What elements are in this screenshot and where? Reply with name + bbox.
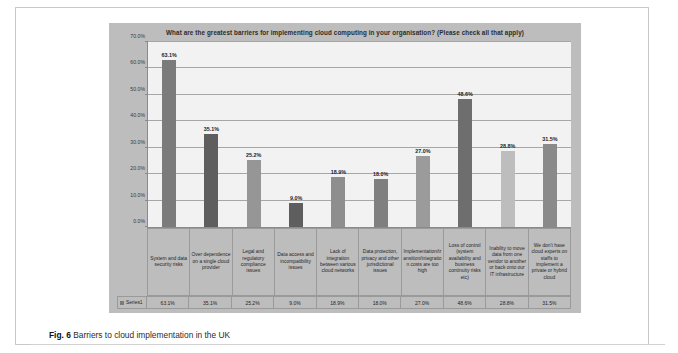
bar-value-label: 18.9% bbox=[331, 169, 346, 175]
figure-caption: Fig. 6 Barriers to cloud implementation … bbox=[49, 330, 649, 340]
y-axis-tick-label: 70.0% bbox=[130, 33, 145, 39]
value-cell: 63.1% bbox=[147, 297, 189, 309]
y-axis-tick-label: 40.0% bbox=[130, 112, 145, 118]
category-label-cell: Implementation/transition/integration co… bbox=[402, 229, 444, 296]
category-label-cell: Legal and regulatory compliance issues bbox=[233, 229, 275, 296]
y-axis-tick-label: 30.0% bbox=[130, 139, 145, 145]
figure-frame: What are the greatest barriers for imple… bbox=[15, 7, 649, 345]
category-axis-table: System and data security risksOver depen… bbox=[147, 228, 571, 296]
chart-title: What are the greatest barriers for imple… bbox=[123, 26, 567, 41]
value-cell: 35.1% bbox=[189, 297, 231, 309]
gridline bbox=[148, 120, 571, 121]
bar-value-label: 28.8% bbox=[500, 143, 515, 149]
y-axis-tick-label: 20.0% bbox=[130, 165, 145, 171]
value-cell: 48.6% bbox=[444, 297, 486, 309]
bar-value-label: 18.0% bbox=[373, 171, 388, 177]
y-axis-tick-mark bbox=[145, 120, 148, 121]
bar[interactable]: 18.9% bbox=[331, 177, 345, 227]
value-cell: 18.9% bbox=[317, 297, 359, 309]
bar-value-label: 48.6% bbox=[458, 91, 473, 97]
bar[interactable]: 27.0% bbox=[416, 156, 430, 227]
plot-area: 0.0%10.0%20.0%30.0%40.0%50.0%60.0%70.0%6… bbox=[147, 42, 571, 228]
y-axis-tick-label: 0.0% bbox=[133, 218, 145, 224]
y-axis-tick-mark bbox=[145, 41, 148, 42]
category-label-cell: System and data security risks bbox=[147, 229, 190, 296]
value-cell: 9.0% bbox=[274, 297, 316, 309]
bar[interactable]: 9.0% bbox=[289, 203, 303, 227]
y-axis-tick-label: 60.0% bbox=[130, 59, 145, 65]
value-cell: 28.8% bbox=[486, 297, 528, 309]
legend-series-label: Series1 bbox=[126, 300, 143, 305]
category-label-cell: Lack of integration between various clou… bbox=[317, 229, 359, 296]
bar-value-label: 25.2% bbox=[246, 152, 261, 158]
gridline bbox=[148, 94, 571, 95]
gridline bbox=[148, 41, 571, 42]
bar[interactable]: 63.1% bbox=[162, 60, 176, 227]
figure-label: Fig. 6 bbox=[49, 330, 71, 340]
bar-value-label: 9.0% bbox=[290, 195, 302, 201]
bar[interactable]: 31.5% bbox=[543, 144, 557, 227]
category-label-cell: We don't have cloud experts on staffs to… bbox=[529, 229, 571, 296]
category-label-cell: Data access and incompatibility issues bbox=[275, 229, 317, 296]
bar[interactable]: 28.8% bbox=[501, 151, 515, 227]
y-axis-tick-mark bbox=[145, 67, 148, 68]
bar[interactable]: 35.1% bbox=[204, 134, 218, 227]
category-label-cell: Inability to move data from one vendor t… bbox=[486, 229, 528, 296]
value-cell-group: 63.1%35.1%25.2%9.0%18.9%18.0%27.0%48.6%2… bbox=[147, 297, 571, 309]
bar[interactable]: 18.0% bbox=[374, 179, 388, 227]
bar[interactable]: 25.2% bbox=[247, 160, 261, 227]
value-cell: 31.5% bbox=[529, 297, 571, 309]
bar-value-label: 31.5% bbox=[542, 136, 557, 142]
figure-caption-text: Barriers to cloud implementation in the … bbox=[73, 330, 230, 340]
category-label-cell: Loss of control (system availability and… bbox=[444, 229, 486, 296]
series-value-row: Series1 63.1%35.1%25.2%9.0%18.9%18.0%27.… bbox=[117, 296, 571, 309]
category-label-cell: Over dependence on a single cloud provid… bbox=[190, 229, 232, 296]
bar-value-label: 63.1% bbox=[161, 52, 176, 58]
value-cell: 27.0% bbox=[401, 297, 443, 309]
value-cell: 18.0% bbox=[359, 297, 401, 309]
figure-page: What are the greatest barriers for imple… bbox=[0, 0, 678, 353]
bar-value-label: 27.0% bbox=[415, 148, 430, 154]
plot-wrapper: 0.0%10.0%20.0%30.0%40.0%50.0%60.0%70.0%6… bbox=[147, 42, 571, 228]
caption-divider bbox=[31, 344, 665, 345]
y-axis-tick-mark bbox=[145, 226, 148, 227]
legend-swatch-icon bbox=[120, 301, 124, 305]
gridline bbox=[148, 67, 571, 68]
y-axis-tick-label: 10.0% bbox=[130, 192, 145, 198]
legend-key-series1: Series1 bbox=[117, 297, 147, 309]
y-axis-tick-mark bbox=[145, 200, 148, 201]
category-label-cell: Data protection, privacy and other juris… bbox=[359, 229, 401, 296]
y-axis-tick-label: 50.0% bbox=[130, 86, 145, 92]
bar-value-label: 35.1% bbox=[204, 126, 219, 132]
chart-object[interactable]: What are the greatest barriers for imple… bbox=[109, 23, 581, 313]
value-cell: 25.2% bbox=[232, 297, 274, 309]
y-axis-tick-mark bbox=[145, 147, 148, 148]
bar[interactable]: 48.6% bbox=[458, 99, 472, 227]
y-axis-tick-mark bbox=[145, 94, 148, 95]
y-axis-tick-mark bbox=[145, 173, 148, 174]
